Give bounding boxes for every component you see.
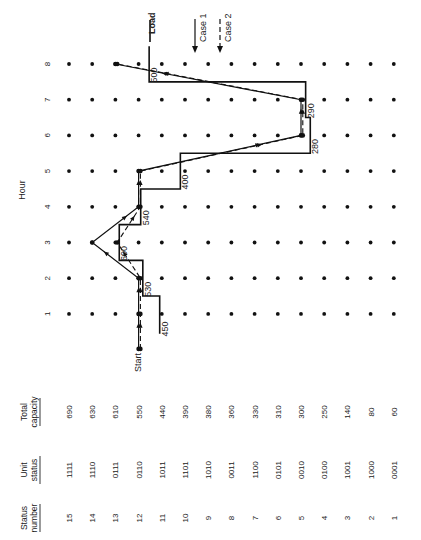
table-cell-unit-status: 1011	[158, 461, 167, 479]
table-cell-total-capacity: 550	[135, 405, 144, 419]
state-dot	[67, 62, 71, 66]
state-dot	[346, 169, 350, 173]
state-dot	[90, 312, 94, 316]
table-header-unit-status: status	[29, 459, 39, 482]
table-cell-total-capacity: 310	[274, 405, 283, 419]
hour-tick-label: 3	[43, 240, 52, 245]
state-dot	[299, 205, 303, 209]
load-value-label: 540	[141, 210, 151, 225]
state-dot	[206, 169, 210, 173]
hour-tick-label: 1	[43, 311, 52, 316]
case-2-legend-label: Case 2	[223, 13, 233, 42]
state-dot	[114, 134, 118, 138]
visited-state-dot	[138, 169, 143, 174]
state-dot	[67, 205, 71, 209]
state-dot	[67, 169, 71, 173]
hour-tick-label: 5	[43, 168, 52, 173]
state-dot	[160, 205, 164, 209]
status-table: Statusnumber151413121110987654321Unitsta…	[19, 396, 399, 533]
state-dot	[90, 169, 94, 173]
state-dot	[114, 98, 118, 102]
state-dot	[299, 312, 303, 316]
state-dot	[392, 134, 396, 138]
table-cell-unit-status: 1010	[204, 461, 213, 479]
table-cell-unit-status: 1101	[181, 461, 190, 479]
state-dot	[160, 134, 164, 138]
load-value-label: 290	[306, 103, 316, 118]
table-header-total-capacity: capacity	[29, 396, 39, 428]
state-dot	[253, 98, 257, 102]
state-dot	[183, 134, 187, 138]
state-dot	[392, 98, 396, 102]
state-dot	[253, 312, 257, 316]
hour-tick-label: 6	[43, 133, 52, 138]
state-dot	[322, 312, 326, 316]
state-dot	[206, 276, 210, 280]
visited-state-dot	[301, 97, 306, 102]
state-dot	[67, 134, 71, 138]
state-dot	[299, 169, 303, 173]
case-1-legend-label: Case 1	[198, 13, 208, 42]
state-dot	[299, 62, 303, 66]
state-dot	[230, 134, 234, 138]
load-value-label: 450	[160, 321, 170, 336]
table-cell-status-number: 11	[158, 513, 167, 522]
state-dot	[299, 276, 303, 280]
visited-state-dot	[138, 347, 143, 352]
state-dot	[160, 62, 164, 66]
table-cell-status-number: 4	[320, 515, 329, 520]
start-label: Start	[133, 352, 143, 372]
state-dot	[322, 134, 326, 138]
state-dot	[160, 241, 164, 245]
state-dot	[67, 241, 71, 245]
state-dot	[346, 205, 350, 209]
table-cell-total-capacity: 140	[343, 405, 352, 419]
state-dot-grid	[67, 62, 396, 316]
state-dot	[369, 134, 373, 138]
legend-case-1: Case 1	[192, 13, 208, 53]
state-dot	[299, 241, 303, 245]
state-dot	[90, 276, 94, 280]
state-dot	[369, 241, 373, 245]
state-dot	[253, 205, 257, 209]
state-dot	[276, 241, 280, 245]
state-dot	[276, 62, 280, 66]
table-header-status-number: number	[29, 503, 39, 532]
table-cell-status-number: 5	[297, 515, 306, 520]
table-cell-unit-status: 1111	[65, 461, 74, 478]
table-cell-total-capacity: 80	[367, 407, 376, 416]
table-cell-total-capacity: 380	[204, 405, 213, 419]
state-dot	[346, 276, 350, 280]
table-header-unit-status: Unit	[19, 462, 29, 478]
state-dot	[230, 241, 234, 245]
table-cell-status-number: 2	[367, 515, 376, 520]
hour-tick-label: 7	[43, 97, 52, 102]
table-cell-total-capacity: 610	[111, 405, 120, 419]
table-cell-unit-status: 0001	[390, 461, 399, 479]
table-cell-status-number: 8	[227, 515, 236, 520]
state-dot	[322, 169, 326, 173]
state-dot	[369, 62, 373, 66]
state-dot	[369, 169, 373, 173]
unit-commitment-chart: 12345678 Hour 450530600540400280290500 S…	[0, 0, 421, 540]
state-dot	[253, 169, 257, 173]
state-dot	[206, 241, 210, 245]
table-cell-status-number: 10	[181, 513, 190, 522]
visited-state-dot	[138, 312, 143, 317]
table-cell-unit-status: 1001	[343, 461, 352, 479]
load-value-labels: 450530600540400280290500	[119, 67, 320, 336]
table-cell-total-capacity: 330	[251, 405, 260, 419]
state-dot	[230, 276, 234, 280]
state-dot	[90, 205, 94, 209]
hour-tick-labels: 12345678	[43, 61, 52, 316]
state-dot	[253, 62, 257, 66]
state-dot	[253, 276, 257, 280]
table-cell-unit-status: 0010	[297, 461, 306, 479]
annotations: Load Case 1 Case 2 Start	[133, 13, 233, 373]
state-dot	[322, 98, 326, 102]
state-dot	[206, 134, 210, 138]
table-cell-unit-status: 0011	[227, 461, 236, 479]
table-cell-status-number: 6	[274, 515, 283, 520]
state-dot	[392, 241, 396, 245]
table-cell-unit-status: 0101	[274, 461, 283, 479]
